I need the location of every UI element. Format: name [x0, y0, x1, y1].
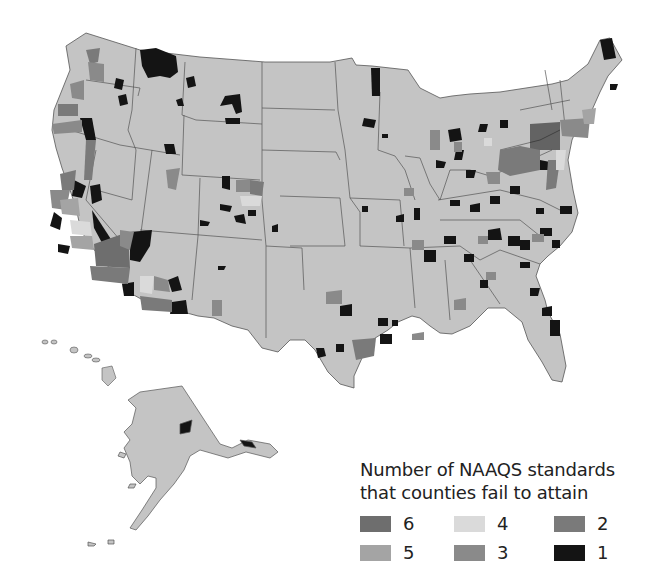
legend-title-line2: that counties fail to attain	[360, 481, 634, 504]
legend-title-line1: Number of NAAQS standards	[360, 458, 634, 481]
legend-item-2: 2	[554, 514, 634, 534]
legend-item-1: 1	[554, 543, 634, 563]
legend-swatch	[454, 545, 485, 561]
legend-item-5: 5	[360, 543, 454, 563]
legend-item-3: 3	[454, 543, 554, 563]
legend-label: 6	[403, 514, 414, 534]
legend-label: 2	[597, 514, 608, 534]
legend-item-6: 6	[360, 514, 454, 534]
legend-swatch	[360, 545, 391, 561]
legend-swatch	[454, 516, 485, 532]
hawaii	[42, 340, 116, 386]
legend-label: 5	[403, 543, 414, 563]
legend-swatch	[554, 516, 585, 532]
legend-swatch	[554, 545, 585, 561]
legend-grid: 6 4 2 5 3 1	[360, 514, 634, 563]
legend-item-4: 4	[454, 514, 554, 534]
legend-label: 4	[497, 514, 508, 534]
legend: Number of NAAQS standards that counties …	[360, 458, 634, 563]
legend-label: 3	[497, 543, 508, 563]
legend-label: 1	[597, 543, 608, 563]
alaska	[88, 386, 278, 546]
legend-swatch	[360, 516, 391, 532]
